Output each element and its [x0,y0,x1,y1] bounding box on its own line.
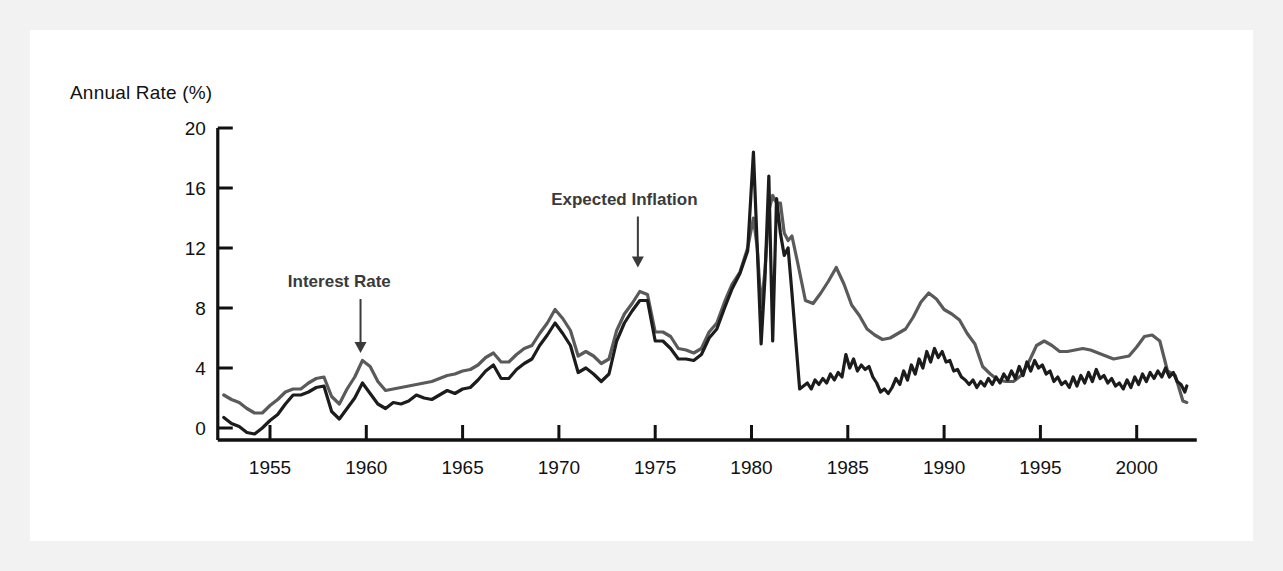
y-tick-label-4: 4 [195,358,206,379]
x-tick-label-1965: 1965 [441,457,483,478]
x-tick-label-2000: 2000 [1116,457,1158,478]
annotation-arrow-head-interest-rate [355,342,367,353]
y-tick-label-8: 8 [195,298,206,319]
annotation-label-expected-inflation: Expected Inflation [551,190,697,209]
x-tick-label-1955: 1955 [249,457,291,478]
y-tick-label-0: 0 [195,418,206,439]
x-tick-label-1985: 1985 [827,457,869,478]
x-tick-label-1960: 1960 [345,457,387,478]
annotation-label-interest-rate: Interest Rate [288,272,391,291]
series-group [224,152,1187,434]
x-tick-label-1975: 1975 [634,457,676,478]
y-axis: 048121620 [185,118,233,440]
x-tick-label-1990: 1990 [923,457,965,478]
y-tick-label-16: 16 [185,178,206,199]
x-tick-label-1970: 1970 [538,457,580,478]
figure-frame: Annual Rate (%) 048121620 19551960196519… [0,0,1283,571]
y-tick-label-12: 12 [185,238,206,259]
x-axis: 1955196019651970197519801985199019952000 [218,425,1197,478]
series-line-interest-rate [224,196,1187,414]
x-tick-label-1980: 1980 [730,457,772,478]
x-tick-label-1995: 1995 [1019,457,1061,478]
annotation-arrow-head-expected-inflation [632,257,644,268]
chart-canvas: 048121620 195519601965197019751980198519… [0,0,1283,571]
series-line-expected-inflation [224,152,1187,434]
annotations-group: Interest RateExpected Inflation [288,190,698,354]
y-tick-label-20: 20 [185,118,206,139]
